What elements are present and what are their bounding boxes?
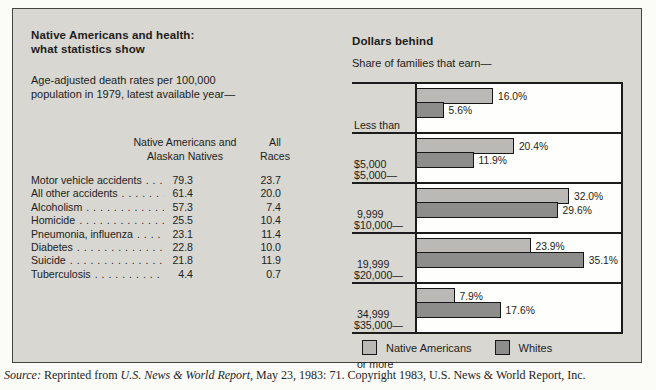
table-row: Suicide21.811.9 (31, 254, 281, 267)
source-journal-name: U.S. News & World Report (121, 368, 251, 382)
source-text-post: , May 23, 1983: 71. Copyright 1983, U.S.… (250, 368, 585, 382)
table-row: Tuberculosis4.40.7 (31, 268, 281, 281)
chart-title: Dollars behind (352, 35, 628, 47)
bar-value-label: 23.9% (536, 240, 565, 251)
column-header-all-races: All Races (235, 136, 315, 163)
chart-band: $20,000— 34,999 23.9% 35.1% (352, 234, 623, 284)
table-row: All other accidents61.420.0 (31, 187, 281, 200)
left-panel-title-line1: Native Americans and health: (31, 28, 336, 42)
chart-band: $5,000— 9,999 20.4% 11.9% (352, 134, 623, 184)
bar-value-label: 32.0% (574, 190, 603, 201)
source-citation: Source: Reprinted from U.S. News & World… (4, 368, 654, 383)
source-label: Source: (4, 368, 41, 382)
bar-whites: 17.6% (417, 302, 501, 318)
dot-leader (70, 254, 164, 267)
dollars-behind-panel: Dollars behind Share of families that ea… (352, 9, 628, 355)
all-races-value: 10.0 (193, 241, 281, 254)
native-value: 61.4 (167, 187, 193, 200)
chart-band: $35,000— or more 7.9% 17.6% (352, 284, 623, 334)
table-row: Homicide25.510.4 (31, 214, 281, 227)
category-label: $10,000— 19,999 (352, 184, 415, 232)
legend-label-native-americans: Native Americans (386, 342, 472, 354)
bar-value-label: 29.6% (563, 204, 592, 215)
native-value: 57.3 (167, 201, 193, 214)
left-panel-subtitle-line1: Age-adjusted death rates per 100,000 (31, 74, 336, 88)
all-races-value: 11.9 (193, 254, 281, 267)
native-value: 23.1 (167, 228, 193, 241)
bar-value-label: 20.4% (519, 140, 548, 151)
table-row: Motor vehicle accidents79.323.7 (31, 174, 281, 187)
category-label: $35,000— or more (352, 284, 415, 332)
bar-whites: 29.6% (417, 202, 558, 218)
table-row: Alcoholism57.37.4 (31, 201, 281, 214)
death-rate-table: Motor vehicle accidents79.323.7 All othe… (31, 174, 281, 281)
left-panel-title: Native Americans and health: what statis… (31, 28, 336, 56)
bar-value-label: 5.6% (449, 104, 472, 115)
bar-whites: 5.6% (417, 102, 444, 118)
native-value: 4.4 (167, 268, 193, 281)
source-text-pre: Reprinted from (41, 368, 121, 382)
all-races-value: 10.4 (193, 214, 281, 227)
chart-band: $10,000— 19,999 32.0% 29.6% (352, 184, 623, 234)
legend-swatch-whites (495, 340, 510, 355)
bar-value-label: 7.9% (460, 290, 483, 301)
category-label: $5,000— 9,999 (352, 134, 415, 182)
left-panel-subtitle-line2: population in 1979, latest available yea… (31, 88, 336, 102)
income-bar-chart: Less than $5,000 16.0% 5.6% $5,000— 9,99… (352, 82, 623, 334)
plot-area: 20.4% 11.9% (415, 134, 623, 182)
table-header: Native Americans and Alaskan Natives All… (31, 136, 281, 164)
all-races-value: 7.4 (193, 201, 281, 214)
all-races-value: 11.4 (193, 228, 281, 241)
plot-area: 16.0% 5.6% (415, 84, 623, 132)
category-label: Less than $5,000 (352, 84, 415, 132)
plot-area: 32.0% 29.6% (415, 184, 623, 232)
dot-leader (86, 201, 164, 214)
figure-box: Native Americans and health: what statis… (12, 8, 642, 363)
left-panel-subtitle: Age-adjusted death rates per 100,000 pop… (31, 74, 336, 101)
column-header-native-americans: Native Americans and Alaskan Natives (125, 136, 245, 163)
dot-leader (146, 174, 164, 187)
native-value: 21.8 (167, 254, 193, 267)
category-label: $20,000— 34,999 (352, 234, 415, 282)
all-races-value: 20.0 (193, 187, 281, 200)
plot-area: 23.9% 35.1% (415, 234, 623, 282)
all-races-value: 0.7 (193, 268, 281, 281)
chart-band: Less than $5,000 16.0% 5.6% (352, 84, 623, 134)
native-value: 79.3 (167, 174, 193, 187)
bar-whites: 35.1% (417, 252, 584, 268)
dot-leader (77, 241, 164, 254)
bar-value-label: 35.1% (589, 254, 618, 265)
table-row: Pneumonia, influenza23.111.4 (31, 228, 281, 241)
bar-whites: 11.9% (417, 152, 474, 168)
legend-label-whites: Whites (519, 342, 553, 354)
bar-value-label: 17.6% (506, 304, 535, 315)
table-row: Diabetes22.810.0 (31, 241, 281, 254)
dot-leader (137, 228, 164, 241)
chart-legend: Native Americans Whites (352, 340, 628, 355)
all-races-value: 23.7 (193, 174, 281, 187)
left-panel-title-line2: what statistics show (31, 42, 336, 56)
dot-leader (122, 187, 164, 200)
chart-subtitle: Share of families that earn— (352, 57, 628, 69)
native-value: 25.5 (167, 214, 193, 227)
dot-leader (79, 214, 164, 227)
health-statistics-panel: Native Americans and health: what statis… (31, 9, 336, 281)
native-value: 22.8 (167, 241, 193, 254)
legend-swatch-native-americans (362, 340, 377, 355)
bar-value-label: 11.9% (479, 154, 507, 165)
page: { "figure": { "left_panel": { "title_lin… (0, 0, 656, 390)
plot-area: 7.9% 17.6% (415, 284, 623, 332)
bar-value-label: 16.0% (498, 90, 527, 101)
dot-leader (95, 268, 164, 281)
